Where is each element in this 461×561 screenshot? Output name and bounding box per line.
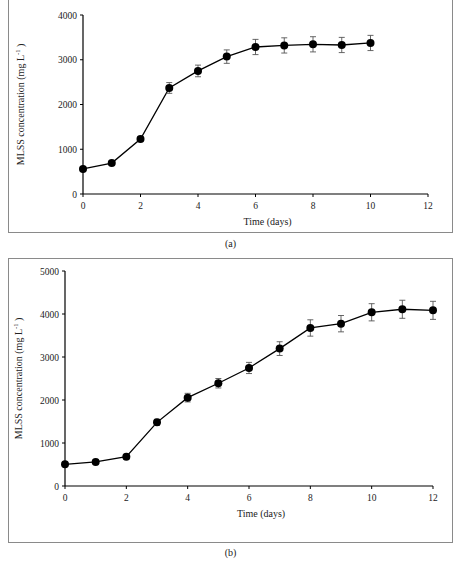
x-tick-label: 0 — [63, 493, 68, 503]
data-point — [337, 320, 345, 328]
y-tick-label: 1000 — [40, 439, 59, 449]
y-tick-label: 3000 — [58, 55, 77, 65]
data-point — [165, 84, 173, 92]
y-tick-label: 4000 — [40, 310, 59, 320]
x-tick-label: 8 — [308, 493, 313, 503]
y-axis-label: MLSS concentration (mg L-1 ) — [14, 44, 27, 166]
x-tick-label: 12 — [423, 201, 433, 211]
data-point — [223, 53, 231, 61]
data-point — [137, 135, 145, 143]
data-point — [184, 394, 192, 402]
data-point — [108, 159, 116, 167]
x-tick-label: 6 — [247, 493, 252, 503]
data-point — [194, 67, 202, 75]
x-axis-label: Time (days) — [243, 216, 291, 228]
y-tick-label: 0 — [72, 190, 77, 200]
y-tick-label: 1000 — [58, 145, 77, 155]
x-tick-label: 0 — [81, 201, 86, 211]
y-tick-label: 2000 — [58, 100, 77, 110]
y-axis-label: MLSS concentration (mg L-1 ) — [12, 318, 25, 440]
x-tick-label: 6 — [253, 201, 258, 211]
data-point — [214, 379, 222, 387]
data-point — [245, 364, 253, 372]
x-tick-label: 10 — [367, 493, 377, 503]
chart-b: 010002000300040005000024681012Time (days… — [12, 267, 438, 521]
x-tick-label: 8 — [311, 201, 316, 211]
data-point — [153, 418, 161, 426]
x-tick-label: 10 — [366, 201, 376, 211]
x-tick-label: 4 — [196, 201, 201, 211]
x-axis-label: Time (days) — [237, 508, 285, 520]
data-point — [276, 345, 284, 353]
data-point — [398, 305, 406, 313]
data-point — [61, 460, 69, 468]
data-point — [367, 39, 375, 47]
data-point — [122, 453, 130, 461]
y-tick-label: 3000 — [40, 353, 59, 363]
data-point — [79, 165, 87, 173]
chart-a: 01000200030004000024681012Time (days)MLS… — [14, 11, 433, 229]
data-point — [280, 41, 288, 49]
data-point — [368, 308, 376, 316]
y-tick-label: 2000 — [40, 396, 59, 406]
data-point — [338, 41, 346, 49]
figure-svg: 01000200030004000024681012Time (days)MLS… — [0, 0, 461, 561]
x-tick-label: 4 — [185, 493, 190, 503]
data-point — [306, 324, 314, 332]
y-tick-label: 0 — [54, 482, 59, 492]
x-tick-label: 2 — [124, 493, 129, 503]
y-tick-label: 5000 — [40, 267, 59, 277]
x-tick-label: 2 — [138, 201, 143, 211]
data-point — [92, 458, 100, 466]
y-tick-label: 4000 — [58, 11, 77, 21]
data-point — [252, 43, 260, 51]
data-line — [65, 309, 433, 464]
data-point — [429, 306, 437, 314]
data-point — [309, 40, 317, 48]
x-tick-label: 12 — [428, 493, 438, 503]
